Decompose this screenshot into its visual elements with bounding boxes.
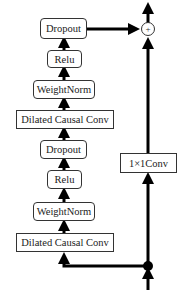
conv1x1-label: 1×1Conv — [129, 158, 168, 169]
add-node: + — [141, 22, 155, 36]
weightnorm-bottom-label: WeightNorm — [37, 206, 92, 217]
weightnorm-bottom-block: WeightNorm — [33, 202, 95, 221]
dropout-bottom-label: Dropout — [46, 144, 81, 155]
weightnorm-top-block: WeightNorm — [33, 80, 95, 99]
relu-bottom-block: Relu — [47, 170, 82, 189]
dropout-bottom-block: Dropout — [40, 140, 87, 159]
dilated-conv-top-label: Dilated Causal Conv — [21, 114, 109, 125]
dropout-top-block: Dropout — [40, 18, 87, 39]
relu-top-label: Relu — [55, 54, 75, 65]
relu-bottom-label: Relu — [55, 174, 75, 185]
plus-icon: + — [145, 24, 150, 34]
dilated-conv-bottom-block: Dilated Causal Conv — [16, 233, 114, 252]
dilated-conv-bottom-label: Dilated Causal Conv — [21, 237, 109, 248]
junction-dot — [143, 261, 153, 271]
relu-top-block: Relu — [47, 50, 82, 68]
dilated-conv-top-block: Dilated Causal Conv — [16, 110, 114, 129]
dropout-top-label: Dropout — [46, 23, 81, 34]
weightnorm-top-label: WeightNorm — [37, 84, 92, 95]
conv1x1-block: 1×1Conv — [120, 153, 177, 173]
